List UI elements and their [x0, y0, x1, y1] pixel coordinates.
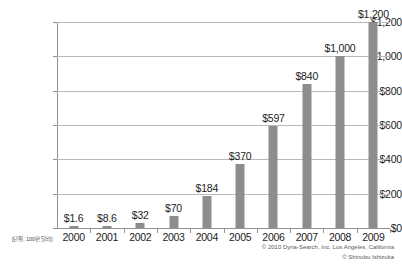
bar-value-label-2005: $370: [229, 150, 252, 162]
bar-2001: [102, 226, 111, 228]
bar-2009: [369, 22, 378, 228]
bar-2005: [236, 164, 245, 228]
x-tick-mark-1: [124, 229, 125, 233]
x-tick-label-2003: 2003: [162, 231, 184, 243]
x-tick-mark-2: [157, 229, 158, 233]
x-tick-label-2000: 2000: [63, 231, 85, 243]
bar-chart: $0$200$400$600$800$1,000$1,200 $1.6$8.6$…: [0, 0, 402, 268]
x-tick-label-2006: 2006: [262, 231, 284, 243]
x-tick-label-2005: 2005: [229, 231, 251, 243]
credit-line-publisher: © 2010 Dyna-Search, Inc. Los Angeles, Ca…: [262, 243, 394, 253]
x-tick-mark-4: [224, 229, 225, 233]
x-tick-label-2009: 2009: [362, 231, 384, 243]
x-tick-mark-3: [190, 229, 191, 233]
bar-value-label-2002: $32: [132, 209, 149, 221]
x-tick-mark-0: [90, 229, 91, 233]
bar-value-label-2003: $70: [165, 202, 182, 214]
x-tick-label-2008: 2008: [329, 231, 351, 243]
bar-value-label-2004: $184: [196, 182, 219, 194]
x-tick-mark-9: [390, 229, 391, 233]
x-tick-label-2001: 2001: [96, 231, 118, 243]
x-tick-label-2007: 2007: [296, 231, 318, 243]
bar-2008: [336, 56, 345, 228]
bar-value-label-2009: $1,200: [358, 8, 389, 20]
unit-note: [단위: 100만 달러]: [12, 235, 53, 243]
bar-2002: [136, 223, 145, 228]
bar-value-label-2001: $8.6: [97, 212, 117, 224]
bar-2004: [202, 196, 211, 228]
x-tick-mark-7: [323, 229, 324, 233]
x-tick-mark-8: [357, 229, 358, 233]
bar-value-label-2007: $840: [295, 70, 318, 82]
bar-2000: [69, 226, 78, 228]
x-tick-label-2004: 2004: [196, 231, 218, 243]
x-tick-label-2002: 2002: [129, 231, 151, 243]
credit-line-author: © Shinobu Ishizuka: [262, 253, 394, 263]
x-tick-mark-5: [257, 229, 258, 233]
bar-value-label-2006: $597: [262, 112, 285, 124]
x-tick-mark-6: [290, 229, 291, 233]
bar-value-label-2000: $1.6: [64, 212, 84, 224]
bar-2006: [269, 126, 278, 228]
gridline-1200: [57, 22, 390, 23]
bar-2003: [169, 216, 178, 228]
bar-2007: [302, 84, 311, 228]
bar-value-label-2008: $1,000: [325, 42, 356, 54]
credits-block: © 2010 Dyna-Search, Inc. Los Angeles, Ca…: [262, 243, 394, 262]
